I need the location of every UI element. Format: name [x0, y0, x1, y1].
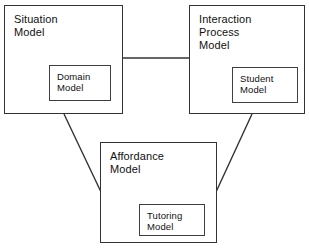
diagram-canvas: Situation Model Domain Model Interaction… — [0, 0, 309, 251]
node-affordance-model-label: Affordance Model — [110, 150, 164, 176]
node-domain-model[interactable]: Domain Model — [49, 65, 111, 101]
node-situation-model-label: Situation Model — [14, 13, 58, 39]
node-interaction-process-model[interactable]: Interaction Process Model Student Model — [189, 5, 305, 114]
connector-interaction-to-affordance — [216, 114, 252, 192]
node-student-model-label: Student Model — [240, 73, 273, 95]
node-interaction-process-model-label: Interaction Process Model — [199, 13, 251, 52]
connector-situation-to-affordance — [64, 114, 101, 192]
node-domain-model-label: Domain Model — [57, 71, 90, 93]
node-tutoring-model-label: Tutoring Model — [147, 210, 182, 232]
node-student-model[interactable]: Student Model — [232, 67, 298, 103]
node-affordance-model[interactable]: Affordance Model Tutoring Model — [100, 142, 217, 243]
node-tutoring-model[interactable]: Tutoring Model — [139, 204, 205, 236]
node-situation-model[interactable]: Situation Model Domain Model — [4, 5, 123, 114]
